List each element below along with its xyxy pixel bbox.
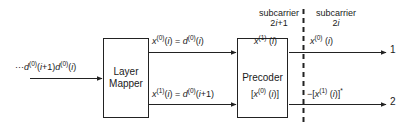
- input-signal-text: ···d(0)(i+1)d(0)(i): [15, 62, 76, 72]
- layer-mapper-block: Layer Mapper: [103, 38, 149, 118]
- block-diagram: Layer Mapper Precoder ···d(0)(i+1)d(0)(i…: [0, 0, 408, 134]
- subcarrier-left-label: subcarrier 2i+1: [255, 8, 303, 28]
- subcarrier-right-line1: subcarrier: [310, 8, 362, 18]
- antenna-port-2-label: 2: [390, 97, 396, 107]
- input-signal-label: ···d(0)(i+1)d(0)(i): [15, 62, 76, 72]
- layer-mapper-label: Layer Mapper: [104, 66, 148, 90]
- layer-mapper-output-top-label: x(0)(i) = d(0)(i): [152, 36, 204, 46]
- precoder-block: Precoder: [237, 38, 288, 118]
- layer-mapper-output-bottom-text: x(1)(i) = d(0)(i+1): [152, 89, 214, 99]
- subcarrier-left-line1: subcarrier: [255, 8, 303, 18]
- precoder-output-bottom-right-text: −[x(1) (i)]*: [307, 89, 343, 99]
- precoder-output-bottom-left-text: [x(0) (i)]: [251, 89, 279, 99]
- precoder-label: Precoder: [242, 72, 283, 84]
- precoder-output-bottom-left-label: [x(0) (i)]: [251, 89, 279, 99]
- precoder-output-top-right-text: x(0) (i): [310, 36, 333, 46]
- antenna-port-1-label: 1: [390, 45, 396, 55]
- precoder-output-top-left-text: x(1) (i): [254, 36, 277, 46]
- subcarrier-right-label: subcarrier 2i: [310, 8, 362, 28]
- layer-mapper-output-top-text: x(0)(i) = d(0)(i): [152, 36, 204, 46]
- subcarrier-left-line2: 2i+1: [255, 18, 303, 28]
- precoder-output-top-right-label: x(0) (i): [310, 36, 333, 46]
- layer-mapper-output-bottom-label: x(1)(i) = d(0)(i+1): [152, 89, 214, 99]
- precoder-output-top-left-label: x(1) (i): [254, 36, 277, 46]
- precoder-output-bottom-right-label: −[x(1) (i)]*: [307, 89, 343, 99]
- subcarrier-right-line2: 2i: [310, 18, 362, 28]
